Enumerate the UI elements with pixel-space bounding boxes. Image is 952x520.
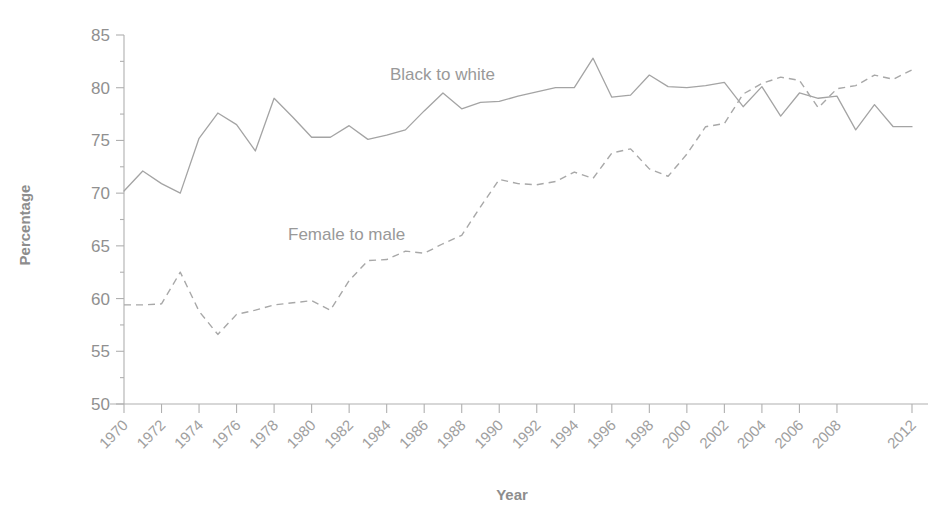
x-tick-label: 1992 — [508, 416, 544, 452]
y-tick-label: 65 — [91, 237, 110, 256]
line-chart: 8580757065605550 19701972197419761978198… — [0, 0, 952, 520]
x-tick-label: 2008 — [808, 416, 844, 452]
series-annotation-1: Black to white — [390, 65, 495, 84]
x-tick-label: 1974 — [171, 416, 207, 452]
x-tick-label: 1984 — [358, 416, 394, 452]
x-tick-label: 1998 — [621, 416, 657, 452]
x-tick-label: 1976 — [208, 416, 244, 452]
x-tick-label: 1988 — [433, 416, 469, 452]
y-tick-label: 80 — [91, 79, 110, 98]
series-annotation-2: Female to male — [288, 225, 405, 244]
x-tick-label: 1990 — [471, 416, 507, 452]
x-axis: 1970197219741976197819801982198419861988… — [96, 404, 928, 452]
x-tick-label: 1982 — [321, 416, 357, 452]
x-tick-label: 1980 — [283, 416, 319, 452]
series-line-1 — [124, 58, 912, 193]
series-annotations: Black to whiteFemale to male — [288, 65, 495, 244]
x-tick-label: 1970 — [96, 416, 132, 452]
x-tick-label: 2006 — [771, 416, 807, 452]
y-axis: 8580757065605550 — [91, 26, 124, 414]
y-axis-title: Percentage — [16, 185, 33, 266]
chart-container: 8580757065605550 19701972197419761978198… — [0, 0, 952, 520]
x-tick-label: 1986 — [396, 416, 432, 452]
x-tick-label: 1978 — [246, 416, 282, 452]
x-tick-label: 2012 — [884, 416, 920, 452]
x-tick-label: 2000 — [658, 416, 694, 452]
x-tick-label: 1996 — [583, 416, 619, 452]
y-tick-label: 70 — [91, 184, 110, 203]
y-tick-label: 85 — [91, 26, 110, 45]
series-lines — [124, 58, 912, 334]
y-tick-label: 50 — [91, 395, 110, 414]
x-tick-label: 2004 — [733, 416, 769, 452]
y-tick-label: 75 — [91, 131, 110, 150]
x-tick-label: 1994 — [546, 416, 582, 452]
x-axis-title: Year — [496, 486, 528, 503]
x-tick-label: 2002 — [696, 416, 732, 452]
y-tick-label: 55 — [91, 342, 110, 361]
series-line-2 — [124, 70, 912, 335]
y-tick-label: 60 — [91, 290, 110, 309]
x-tick-label: 1972 — [133, 416, 169, 452]
